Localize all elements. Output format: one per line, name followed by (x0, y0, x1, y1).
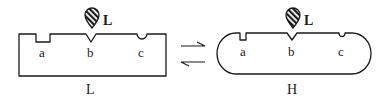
site-a-label: a (240, 44, 246, 59)
hatched-teardrop-icon (286, 8, 300, 28)
state-l: L a b c L (19, 8, 166, 97)
site-b-label: b (87, 45, 94, 60)
reverse-arrow (181, 62, 205, 66)
site-b-label: b (288, 44, 295, 59)
site-c-label: c (138, 45, 144, 60)
ligand-label: L (304, 13, 313, 28)
ligand-label: L (103, 13, 112, 28)
state-h: L a b c H (217, 8, 371, 97)
ligand-h: L (286, 8, 313, 28)
ligand-l: L (85, 8, 112, 28)
site-c-label: c (338, 44, 344, 59)
forward-arrow (181, 42, 205, 46)
hatched-teardrop-icon (85, 8, 99, 28)
state-label: H (287, 82, 297, 97)
equilibrium-harpoons-icon (181, 42, 205, 66)
state-label: L (86, 82, 95, 97)
site-a-label: a (39, 45, 45, 60)
diagram-canvas: L a b c L L a b c H (0, 0, 385, 100)
